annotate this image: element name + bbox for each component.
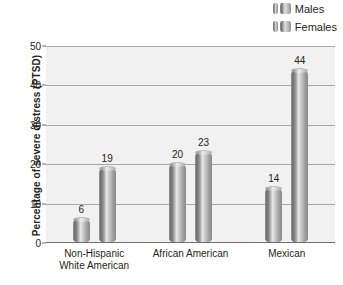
- x-axis-category-line: White American: [46, 260, 142, 272]
- x-axis-category-line: African American: [142, 248, 238, 260]
- bar-females: 44: [291, 70, 308, 243]
- bar-value-label: 19: [102, 153, 113, 164]
- bar-group: 2023: [142, 46, 238, 243]
- legend-cylinder-icon: [273, 3, 278, 14]
- bar-value-label: 44: [294, 55, 305, 66]
- x-axis-category-label: Mexican: [239, 248, 335, 272]
- bar-value-label: 14: [268, 173, 279, 184]
- legend-cylinder-icon: [273, 21, 278, 32]
- bar-males: 6: [73, 219, 90, 243]
- bar-group-bars: 1444: [239, 46, 335, 243]
- x-axis-line: [46, 242, 335, 243]
- plot-area: 01020304050 61920231444: [46, 46, 335, 243]
- ptsd-severe-distress-bar-chart: Males Females Percentage of severe distr…: [0, 0, 343, 285]
- bar-groups: 61920231444: [46, 46, 335, 243]
- chart-legend: Males Females: [273, 2, 337, 33]
- x-axis-category-label: African American: [142, 248, 238, 272]
- x-axis-labels: Non-HispanicWhite AmericanAfrican Americ…: [46, 248, 335, 272]
- x-axis-category-line: Non-Hispanic: [46, 248, 142, 260]
- legend-swatch-males: [273, 3, 291, 14]
- legend-label-females: Females: [295, 21, 337, 33]
- bar-value-label: 6: [78, 204, 84, 215]
- legend-cylinder-icon: [280, 21, 291, 32]
- bar-value-label: 23: [198, 137, 209, 148]
- x-axis-category-line: Mexican: [239, 248, 335, 260]
- bar-group-bars: 619: [46, 46, 142, 243]
- bar-group: 1444: [239, 46, 335, 243]
- bar-males: 14: [265, 188, 282, 243]
- bar-group-bars: 2023: [142, 46, 238, 243]
- bar-value-label: 20: [172, 149, 183, 160]
- bar-females: 23: [195, 152, 212, 243]
- legend-item-females: Females: [273, 20, 337, 33]
- legend-item-males: Males: [273, 2, 324, 15]
- legend-label-males: Males: [295, 3, 324, 15]
- y-axis-label: Percentage of severe distress (PTSD): [31, 46, 42, 246]
- x-axis-category-label: Non-HispanicWhite American: [46, 248, 142, 272]
- bar-females: 19: [99, 168, 116, 243]
- legend-swatch-females: [273, 21, 291, 32]
- bar-males: 20: [169, 164, 186, 243]
- legend-cylinder-icon: [280, 3, 291, 14]
- bar-group: 619: [46, 46, 142, 243]
